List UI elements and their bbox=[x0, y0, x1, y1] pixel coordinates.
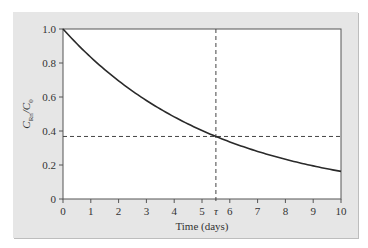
x-tick-label: 10 bbox=[336, 205, 348, 217]
x-tick-label: 1 bbox=[88, 205, 94, 217]
y-axis-title: CRn/C0 bbox=[20, 99, 35, 129]
y-tick-label: 1.0 bbox=[42, 23, 56, 35]
tau-tick-label: τ bbox=[214, 205, 219, 217]
x-tick-label: 8 bbox=[283, 205, 289, 217]
y-tick-label: 0 bbox=[51, 193, 57, 205]
y-tick-label: 0.4 bbox=[42, 125, 56, 137]
y-tick-label: 0.2 bbox=[42, 159, 56, 171]
decay-chart: 00.20.40.60.81.0 012345678910 τ Time (da… bbox=[0, 0, 368, 248]
x-tick-label: 7 bbox=[255, 205, 261, 217]
x-axis-title: Time (days) bbox=[175, 220, 228, 233]
y-tick-label: 0.6 bbox=[42, 91, 56, 103]
x-tick-label: 3 bbox=[144, 205, 150, 217]
y-axis: 00.20.40.60.81.0 bbox=[42, 23, 63, 205]
x-tick-label: 2 bbox=[116, 205, 122, 217]
y-tick-label: 0.8 bbox=[42, 57, 56, 69]
x-tick-label: 9 bbox=[310, 205, 316, 217]
x-tick-label: 6 bbox=[227, 205, 233, 217]
x-axis: 012345678910 bbox=[60, 199, 347, 217]
plot-area bbox=[63, 29, 341, 199]
x-tick-label: 0 bbox=[60, 205, 66, 217]
x-tick-label: 4 bbox=[171, 205, 177, 217]
x-tick-label: 5 bbox=[199, 205, 205, 217]
